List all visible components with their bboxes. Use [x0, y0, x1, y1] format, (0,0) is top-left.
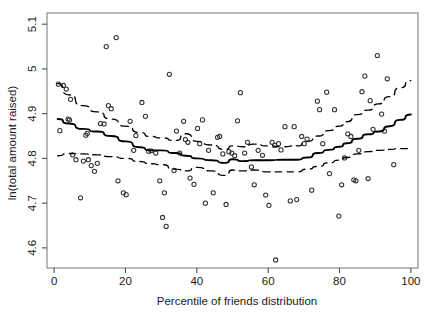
x-axis-title: Percentile of friends distribution — [157, 295, 317, 307]
y-axis-tick-label: 4.6 — [26, 240, 38, 256]
x-axis-tick-label: 60 — [262, 275, 275, 287]
y-axis-title: ln(total amount raised) — [6, 86, 18, 201]
x-axis-tick-label: 40 — [190, 275, 203, 287]
x-axis-tick-label: 0 — [51, 275, 57, 287]
y-axis-tick-label: 4.7 — [26, 195, 38, 211]
y-axis-tick-label: 5 — [26, 66, 38, 72]
chart-figure: 4.64.74.84.955.1 020406080100 Percentile… — [0, 0, 441, 313]
y-axis-tick-label: 4.9 — [26, 106, 38, 122]
x-axis-tick-label: 100 — [401, 275, 420, 287]
scatter-plot-svg: 4.64.74.84.955.1 020406080100 Percentile… — [0, 0, 441, 313]
x-axis-tick-label: 20 — [119, 275, 132, 287]
x-axis-tick-label: 80 — [333, 275, 346, 287]
y-axis-tick-label: 5.1 — [26, 16, 38, 32]
y-axis-tick-label: 4.8 — [26, 150, 38, 166]
chart-background — [0, 0, 441, 313]
